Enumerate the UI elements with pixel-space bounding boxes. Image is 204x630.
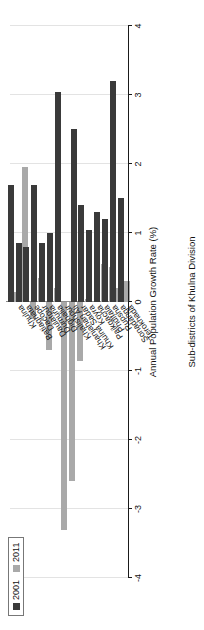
legend-item-2011: 2011 — [11, 543, 21, 572]
axis-tick-label: -1 — [133, 367, 143, 375]
axis-tick-label: -3 — [133, 505, 143, 513]
axis-tick — [128, 94, 132, 95]
bar-2001-khulna — [8, 185, 14, 302]
axis-tick-label: 0 — [133, 299, 143, 304]
bar-2001-daulatpur — [31, 185, 37, 302]
chart-legend: 2001 2011 — [8, 537, 24, 616]
bar-2001-dumuria — [39, 243, 45, 302]
axis-tick — [128, 163, 132, 164]
plot-area — [10, 26, 128, 578]
bar-2001-dacope — [23, 247, 29, 302]
axis-tick — [128, 577, 132, 578]
bar-2001-phultala — [94, 212, 100, 302]
axis-tick — [128, 370, 132, 371]
legend-label-2011: 2011 — [11, 543, 21, 562]
bar-2001-khulna-sadar — [71, 130, 77, 303]
axis-tick — [128, 439, 132, 440]
value-axis-line — [128, 26, 129, 578]
axis-tick-label: 4 — [133, 23, 143, 28]
bar-2001-khalishpur — [55, 92, 61, 302]
axis-tick — [128, 25, 132, 26]
chart-canvas: 43210-1-2-3-4 Annual Population Growth R… — [0, 0, 204, 630]
bar-chart-figure: 43210-1-2-3-4 Annual Population Growth R… — [0, 0, 204, 630]
bar-2001-batiaghata — [16, 243, 22, 302]
axis-tick-label: 3 — [133, 92, 143, 97]
value-axis-title: Annual Population Growth Rate (%) — [147, 26, 158, 578]
bar-2001-paikgacha — [86, 230, 92, 302]
gridline — [10, 577, 128, 578]
axis-tick — [128, 301, 132, 302]
axis-tick-label: -4 — [133, 574, 143, 582]
axis-tick — [128, 508, 132, 509]
gridline — [10, 25, 128, 26]
bar-2001-terokhada — [118, 199, 124, 303]
legend-swatch-2011 — [13, 565, 20, 572]
legend-swatch-2001 — [13, 603, 20, 610]
legend-label-2001: 2001 — [11, 580, 21, 600]
bar-2001-koyra — [78, 205, 84, 302]
axis-tick-label: -2 — [133, 436, 143, 444]
axis-tick-label: 2 — [133, 161, 143, 166]
axis-tick — [128, 232, 132, 233]
legend-item-2001: 2001 — [11, 580, 21, 610]
gridline — [10, 508, 128, 509]
category-axis-title: Sub-districts of Khulna Division — [186, 26, 197, 578]
axis-tick-label: 1 — [133, 230, 143, 235]
bar-2001-sonadanga — [110, 81, 116, 302]
bar-2001-rupsha — [102, 219, 108, 302]
bar-2001-dighalia — [47, 233, 53, 302]
